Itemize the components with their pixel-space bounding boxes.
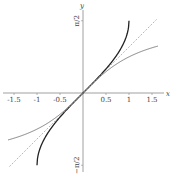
x-tick-label: 1.5 (146, 96, 157, 104)
x-tick-label: -1.5 (7, 96, 21, 104)
x-tick-label: -0.5 (53, 96, 67, 104)
y-axis-label: y (79, 2, 85, 10)
x-axis-label: x (166, 90, 170, 98)
x-tick-label: 0.5 (100, 96, 111, 104)
y-tick-label: π/2 (73, 15, 81, 26)
x-ticks: -1.5-1-0.50.511.5 (7, 93, 157, 104)
function-plot: -1.5-1-0.50.511.5 π/2−π/2 x y (0, 0, 175, 186)
x-tick-label: -1 (34, 96, 41, 104)
x-tick-label: 1 (127, 96, 131, 104)
y-tick-label: −π/2 (73, 157, 81, 174)
